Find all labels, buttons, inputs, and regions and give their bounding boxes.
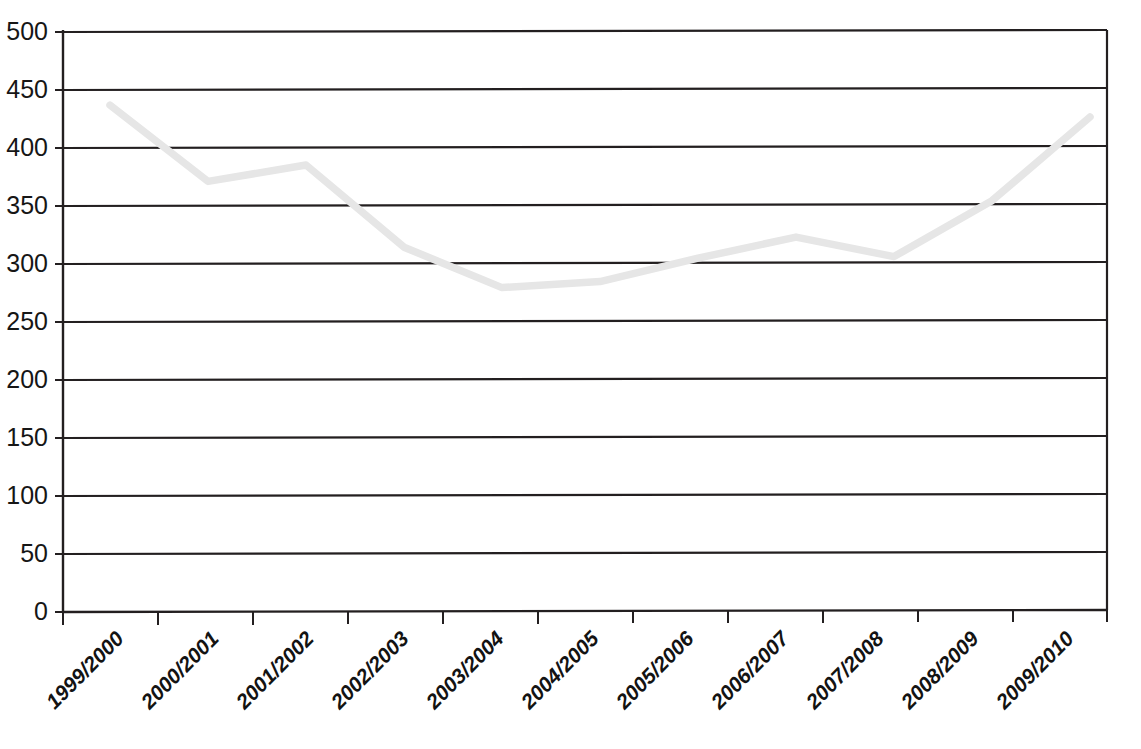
gridline-500 bbox=[63, 30, 1107, 32]
x-axis bbox=[63, 610, 1107, 612]
y-tick-label: 350 bbox=[6, 191, 48, 219]
y-tick-label: 0 bbox=[34, 597, 48, 625]
y-tick-label: 50 bbox=[20, 539, 48, 567]
data-series-line bbox=[110, 105, 1090, 288]
y-tick-label: 250 bbox=[6, 307, 48, 335]
y-tick-label: 100 bbox=[6, 481, 48, 509]
y-axis-labels: 500 450 400 350 300 250 200 150 100 50 0 bbox=[6, 17, 48, 625]
x-axis-labels: 1999/2000 2000/2001 2001/2002 2002/2003 … bbox=[41, 626, 1078, 714]
gridline-300 bbox=[63, 262, 1107, 264]
gridline-400 bbox=[63, 146, 1107, 148]
x-tick-label: 2004/2005 bbox=[516, 626, 603, 713]
y-tick-label: 150 bbox=[6, 423, 48, 451]
y-tick-label: 400 bbox=[6, 133, 48, 161]
x-tick-label: 2005/2006 bbox=[611, 626, 698, 713]
gridline-250 bbox=[63, 320, 1107, 322]
gridline-200 bbox=[63, 378, 1107, 380]
gridline-100 bbox=[63, 494, 1107, 496]
x-tick-label: 2008/2009 bbox=[896, 626, 983, 713]
gridlines bbox=[63, 30, 1107, 554]
x-tick-label: 2006/2007 bbox=[706, 626, 794, 714]
y-tick-label: 300 bbox=[6, 249, 48, 277]
gridline-450 bbox=[63, 88, 1107, 90]
x-tick-label: 2009/2010 bbox=[991, 626, 1078, 713]
line-chart: 500 450 400 350 300 250 200 150 100 50 0 bbox=[0, 0, 1141, 749]
x-tick-label: 2007/2008 bbox=[801, 626, 888, 713]
x-tick-label: 1999/2000 bbox=[41, 626, 128, 713]
x-tick-label: 2003/2004 bbox=[421, 626, 508, 713]
chart-page: 500 450 400 350 300 250 200 150 100 50 0 bbox=[0, 0, 1141, 749]
y-tick-label: 200 bbox=[6, 365, 48, 393]
gridline-50 bbox=[63, 552, 1107, 554]
gridline-150 bbox=[63, 436, 1107, 438]
x-tick-label: 2000/2001 bbox=[136, 627, 223, 714]
x-tick-label: 2001/2002 bbox=[231, 626, 318, 713]
x-tick-label: 2002/2003 bbox=[326, 626, 413, 713]
y-tick-label: 500 bbox=[6, 17, 48, 45]
gridline-350 bbox=[63, 204, 1107, 206]
y-tick-label: 450 bbox=[6, 75, 48, 103]
